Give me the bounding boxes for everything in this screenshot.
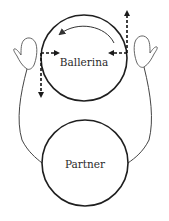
partner-node: Partner	[42, 120, 128, 206]
left-hand-icon	[14, 38, 37, 69]
ballerina-node: Ballerina	[41, 15, 127, 101]
left-arm-line	[19, 69, 42, 163]
ballerina-label: Ballerina	[60, 56, 108, 68]
right-hand-icon	[134, 36, 157, 67]
right-arm-line	[128, 67, 151, 163]
ballerina-partner-diagram: Ballerina Partner	[0, 0, 169, 221]
partner-label: Partner	[65, 158, 106, 170]
